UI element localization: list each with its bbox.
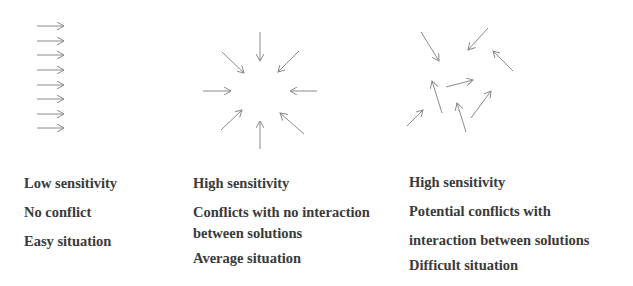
arrow-diagrams xyxy=(0,0,633,160)
arrow-icon xyxy=(421,32,439,61)
sensitivity-label: Low sensitivity xyxy=(24,175,117,192)
arrow-icon xyxy=(468,28,488,50)
conflict-label-cont: between solutions xyxy=(193,225,302,242)
arrow-icon xyxy=(280,113,304,134)
arrow-icon xyxy=(493,51,513,71)
arrow-icon xyxy=(432,81,442,113)
arrow-icon xyxy=(471,91,491,118)
arrow-icon xyxy=(278,51,299,72)
converging-arrows-icon xyxy=(203,32,317,149)
arrow-icon xyxy=(457,103,466,132)
arrow-icon xyxy=(221,110,242,130)
situation-label: Difficult situation xyxy=(409,257,518,274)
conflict-label: No conflict xyxy=(24,204,91,221)
scattered-arrows-icon xyxy=(407,28,513,132)
arrow-icon xyxy=(407,110,423,126)
conflict-label: Potential conflicts with xyxy=(409,203,551,220)
conflict-label-cont: interaction between solutions xyxy=(409,232,589,249)
situation-label: Average situation xyxy=(193,250,301,267)
sensitivity-label: High sensitivity xyxy=(193,175,289,192)
parallel-arrows-icon xyxy=(37,26,64,128)
conflict-label: Conflicts with no interaction xyxy=(193,204,370,221)
arrow-icon xyxy=(446,80,473,87)
situation-label: Easy situation xyxy=(24,233,111,250)
arrow-icon xyxy=(222,52,244,73)
sensitivity-label: High sensitivity xyxy=(409,174,505,191)
